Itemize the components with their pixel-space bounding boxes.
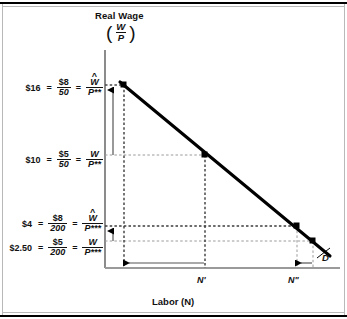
x-axis-title: Labor (N): [152, 296, 194, 307]
wage-label-4-ratio-den: P***: [82, 223, 103, 233]
paren-close: ): [129, 23, 135, 42]
wage-label-250-fraction: $5 200: [48, 238, 67, 258]
y-axis-title: Real Wage: [95, 10, 144, 21]
wage-label-10-ratio: W P**: [86, 150, 103, 170]
wage-label-10-ratio-num: W: [88, 150, 101, 159]
data-point-3: [294, 223, 300, 229]
wage-label-4-value: $4: [22, 219, 32, 229]
wage-label-10-ratio-den: P**: [86, 159, 103, 169]
hat-accent-icon: ^: [92, 72, 97, 81]
data-point-2: [202, 152, 208, 158]
wage-label-4-ratio-num: ^ W: [86, 214, 99, 223]
wage-label-250-ratio: W P***: [82, 238, 103, 258]
wage-label-250-equals: =: [38, 243, 43, 253]
wage-label-4-num: $8: [51, 214, 65, 223]
wage-label-10-num: $5: [57, 150, 71, 159]
data-point-1: [121, 82, 127, 88]
wage-label-250-num: $5: [51, 238, 65, 247]
data-point-4: [310, 238, 316, 244]
wage-label-4-equals2: =: [72, 219, 77, 229]
y-axis-fraction: ( W P ): [106, 22, 136, 43]
wage-label-250-value: $2.50: [9, 243, 32, 253]
wage-label-4-fraction: $8 200: [48, 214, 67, 234]
paren-open: (: [106, 23, 112, 42]
y-frac-denominator: P: [116, 32, 126, 43]
demand-curve: [120, 82, 330, 256]
y-frac: W P: [114, 22, 127, 43]
wage-label-250-den: 200: [48, 247, 67, 257]
wage-label-250-equals2: =: [72, 243, 77, 253]
wage-label-4-equals: =: [38, 219, 43, 229]
figure-container: Real Wage ( W P ) Labor (N) $16 = $8 50 …: [0, 0, 347, 319]
wage-label-10-equals2: =: [76, 155, 81, 165]
wage-label-10-value: $10: [25, 155, 40, 165]
wage-label-10-equals: =: [46, 155, 51, 165]
demand-curve-label: D: [322, 252, 329, 263]
y-frac-numerator: W: [114, 22, 127, 32]
wage-label-16-ratio-den: P**: [86, 87, 103, 97]
wage-label-16-ratio-num: ^ W: [88, 78, 101, 87]
wage-label-4: $4 = $8 200 = ^ W P***: [22, 214, 105, 234]
wage-label-16-den: 50: [57, 87, 71, 97]
wage-label-250-ratio-den: P***: [82, 247, 103, 257]
x-tick-label-nprime: N': [197, 275, 206, 285]
x-tick-label-ndprime: N": [288, 275, 299, 285]
wage-label-250: $2.50 = $5 200 = W P***: [9, 238, 105, 258]
wage-label-10-den: 50: [57, 159, 71, 169]
hat-accent-icon: ^: [90, 208, 95, 217]
wage-label-16-equals2: =: [76, 83, 81, 93]
wage-label-16-equals: =: [46, 83, 51, 93]
wage-label-16-num: $8: [57, 78, 71, 87]
wage-label-16-fraction: $8 50: [57, 78, 71, 98]
wage-label-4-ratio: ^ W P***: [82, 214, 103, 234]
x-axis-title-text: Labor (N): [152, 296, 194, 307]
wage-label-10: $10 = $5 50 = W P**: [25, 150, 105, 170]
wage-label-16-ratio: ^ W P**: [86, 78, 103, 98]
wage-label-16-value: $16: [25, 83, 40, 93]
wage-label-16: $16 = $8 50 = ^ W P**: [25, 78, 105, 98]
wage-label-4-den: 200: [48, 223, 67, 233]
wage-label-10-fraction: $5 50: [57, 150, 71, 170]
wage-label-250-ratio-num: W: [86, 238, 99, 247]
